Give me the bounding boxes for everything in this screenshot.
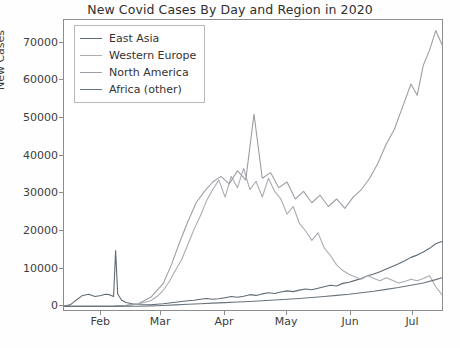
legend-item[interactable]: North America bbox=[80, 64, 196, 81]
y-axis-tick-labels: 010000200003000040000500006000070000 bbox=[0, 0, 58, 348]
y-tick-label: 30000 bbox=[4, 186, 58, 199]
x-tick-label: Feb bbox=[90, 315, 109, 328]
y-tick-label: 60000 bbox=[4, 73, 58, 86]
legend-line-icon bbox=[80, 38, 102, 39]
chart-legend[interactable]: East AsiaWestern EuropeNorth AmericaAfri… bbox=[74, 25, 205, 103]
chart-figure: New Covid Cases By Day and Region in 202… bbox=[0, 0, 460, 348]
legend-item[interactable]: East Asia bbox=[80, 30, 196, 47]
y-tick-label: 70000 bbox=[4, 35, 58, 48]
legend-line-icon bbox=[80, 89, 102, 90]
series-line bbox=[64, 168, 442, 306]
series-line bbox=[64, 242, 442, 307]
x-tick-label: Jun bbox=[341, 315, 358, 328]
y-tick-label: 40000 bbox=[4, 148, 58, 161]
legend-item-label: Africa (other) bbox=[109, 84, 182, 95]
legend-item[interactable]: Africa (other) bbox=[80, 81, 196, 98]
y-tick-label: 0 bbox=[4, 299, 58, 312]
legend-item[interactable]: Western Europe bbox=[80, 47, 196, 64]
x-tick-label: Jul bbox=[405, 315, 418, 328]
legend-item-label: North America bbox=[109, 67, 189, 78]
y-tick-label: 10000 bbox=[4, 261, 58, 274]
page-title: New Covid Cases By Day and Region in 202… bbox=[0, 2, 460, 17]
legend-line-icon bbox=[80, 55, 102, 56]
x-tick-label: May bbox=[275, 315, 298, 328]
y-tick-label: 50000 bbox=[4, 110, 58, 123]
x-tick-label: Apr bbox=[215, 315, 234, 328]
legend-item-label: Western Europe bbox=[109, 50, 196, 61]
series-line bbox=[64, 278, 442, 307]
x-tick-label: Mar bbox=[150, 315, 171, 328]
legend-line-icon bbox=[80, 72, 102, 73]
legend-item-label: East Asia bbox=[109, 33, 159, 44]
y-tick-label: 20000 bbox=[4, 223, 58, 236]
